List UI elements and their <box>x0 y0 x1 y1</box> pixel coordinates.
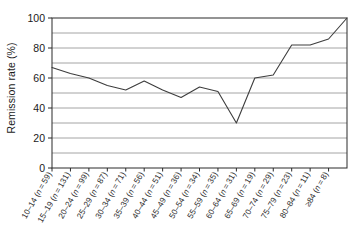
line-chart-svg: 020406080100 10–14 (n = 59)15–19 (n = 13… <box>0 0 360 233</box>
x-axis-ticks-group <box>52 168 329 172</box>
y-tick-label-100: 100 <box>27 12 45 24</box>
chart-figure: Remission rate (%) 020406080100 10–14 (n… <box>0 0 360 233</box>
y-tick-label-40: 40 <box>33 102 45 114</box>
y-tick-label-60: 60 <box>33 72 45 84</box>
x-axis-labels-group: 10–14 (n = 59)15–19 (n = 131)20–24 (n = … <box>20 170 331 224</box>
data-line-series-remission-rate <box>52 18 347 123</box>
y-axis-ticks-group: 020406080100 <box>27 12 52 174</box>
y-tick-label-80: 80 <box>33 42 45 54</box>
gridlines-group <box>52 33 347 153</box>
y-tick-label-20: 20 <box>33 132 45 144</box>
